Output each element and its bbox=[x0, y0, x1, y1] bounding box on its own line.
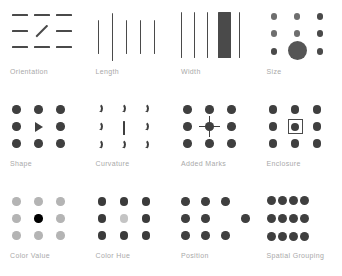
width-line-5 bbox=[239, 12, 240, 58]
color-value-dot-7 bbox=[12, 231, 21, 240]
added-marks-dot-7 bbox=[183, 139, 192, 148]
panel-label-spatial-grouping: Spatial Grouping bbox=[267, 252, 325, 259]
width-line-2 bbox=[194, 12, 195, 58]
position-dot-4 bbox=[181, 214, 190, 223]
orientation-dash-2 bbox=[34, 14, 50, 16]
shape-dot-1 bbox=[12, 105, 21, 114]
color-hue-dot-4 bbox=[98, 214, 107, 223]
preattentive-attributes-board: Orientation Length Width bbox=[0, 0, 342, 276]
shape-dot-2 bbox=[34, 105, 43, 114]
enclosure-stage bbox=[257, 92, 342, 160]
color-hue-dot-1 bbox=[98, 197, 107, 206]
shape-dot-3 bbox=[56, 105, 65, 114]
panel-size: Size bbox=[257, 0, 342, 92]
curvature-arc-6 bbox=[142, 121, 149, 132]
color-value-dot-1 bbox=[12, 197, 21, 206]
panel-label-width: Width bbox=[181, 68, 201, 75]
curvature-straight-center bbox=[123, 121, 126, 135]
spatial-grouping-dot-3 bbox=[289, 196, 298, 205]
added-marks-dot-6 bbox=[227, 122, 236, 131]
curvature-arc-1 bbox=[96, 103, 103, 114]
size-dot-9 bbox=[317, 48, 324, 55]
spatial-grouping-dot-8 bbox=[300, 214, 309, 223]
panel-label-curvature: Curvature bbox=[96, 160, 130, 167]
position-dot-1 bbox=[181, 197, 190, 206]
enclosure-dot-4 bbox=[269, 122, 278, 131]
color-value-dot-8 bbox=[34, 231, 43, 240]
width-line-1 bbox=[181, 12, 182, 58]
shape-dot-4 bbox=[12, 122, 21, 131]
panel-added-marks: Added Marks bbox=[171, 92, 257, 184]
panel-width: Width bbox=[171, 0, 257, 92]
orientation-dash-7 bbox=[12, 46, 28, 48]
shape-stage bbox=[0, 92, 86, 160]
length-line-1 bbox=[98, 20, 99, 54]
added-marks-star-vertical bbox=[209, 116, 211, 137]
added-marks-stage bbox=[171, 92, 257, 160]
spatial-grouping-dot-12 bbox=[300, 232, 309, 241]
enclosure-dot-1 bbox=[269, 105, 278, 114]
shape-dot-8 bbox=[34, 139, 43, 148]
length-line-4 bbox=[140, 20, 141, 54]
position-dot-9 bbox=[221, 231, 230, 240]
enclosure-dot-9 bbox=[313, 139, 322, 148]
color-hue-dot-5-accent bbox=[120, 214, 129, 223]
panel-label-orientation: Orientation bbox=[10, 68, 48, 75]
curvature-stage bbox=[86, 92, 172, 160]
length-line-5 bbox=[154, 20, 155, 54]
enclosure-dot-7 bbox=[269, 139, 278, 148]
panel-label-shape: Shape bbox=[10, 160, 32, 167]
size-dot-1 bbox=[271, 13, 278, 20]
color-hue-dot-2 bbox=[120, 197, 129, 206]
orientation-dash-8 bbox=[34, 46, 50, 48]
panel-orientation: Orientation bbox=[0, 0, 86, 92]
size-dot-6 bbox=[317, 30, 324, 37]
panel-color-value: Color Value bbox=[0, 184, 86, 276]
added-marks-dot-4 bbox=[183, 122, 192, 131]
panel-label-enclosure: Enclosure bbox=[267, 160, 301, 167]
panel-spatial-grouping: Spatial Grouping bbox=[257, 184, 342, 276]
position-dot-7 bbox=[181, 231, 190, 240]
color-hue-dot-8 bbox=[120, 231, 129, 240]
added-marks-dot-3 bbox=[227, 105, 236, 114]
orientation-dash-4 bbox=[12, 30, 28, 32]
orientation-dash-5-rotated bbox=[35, 25, 48, 38]
panel-enclosure: Enclosure bbox=[257, 92, 342, 184]
panel-label-added-marks: Added Marks bbox=[181, 160, 226, 167]
panel-length: Length bbox=[86, 0, 172, 92]
shape-triangle-center bbox=[35, 122, 43, 132]
color-value-dot-9 bbox=[56, 231, 65, 240]
orientation-dash-6 bbox=[56, 30, 72, 32]
size-dot-2 bbox=[294, 13, 301, 20]
orientation-stage bbox=[0, 0, 86, 68]
curvature-arc-4 bbox=[96, 121, 103, 132]
color-value-dot-2 bbox=[34, 197, 43, 206]
position-dot-2 bbox=[201, 197, 210, 206]
panel-label-size: Size bbox=[267, 68, 282, 75]
enclosure-dot-2 bbox=[291, 105, 300, 114]
size-dot-3 bbox=[317, 13, 324, 20]
position-dot-5 bbox=[201, 214, 210, 223]
panel-label-color-value: Color Value bbox=[10, 252, 50, 259]
shape-dot-9 bbox=[56, 139, 65, 148]
panel-label-length: Length bbox=[96, 68, 120, 75]
length-line-2-long bbox=[112, 13, 114, 61]
panel-label-position: Position bbox=[181, 252, 209, 259]
size-dot-7 bbox=[271, 48, 278, 55]
spatial-grouping-dot-5 bbox=[267, 214, 276, 223]
color-hue-stage bbox=[86, 184, 172, 252]
width-stage bbox=[171, 0, 257, 68]
size-dot-5 bbox=[294, 30, 301, 37]
color-hue-dot-7 bbox=[98, 231, 107, 240]
shape-dot-6 bbox=[56, 122, 65, 131]
added-marks-dot-8 bbox=[205, 139, 214, 148]
enclosure-dot-3 bbox=[313, 105, 322, 114]
orientation-dash-3 bbox=[56, 14, 72, 16]
spatial-grouping-dot-2 bbox=[278, 196, 287, 205]
color-hue-dot-6 bbox=[142, 214, 151, 223]
curvature-arc-8 bbox=[119, 139, 126, 150]
color-hue-dot-3 bbox=[142, 197, 151, 206]
color-value-dot-5-accent bbox=[34, 214, 43, 223]
length-line-3 bbox=[126, 20, 127, 54]
added-marks-dot-2 bbox=[205, 105, 214, 114]
